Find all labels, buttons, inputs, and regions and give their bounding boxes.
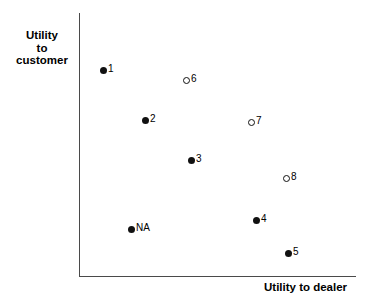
data-point-label: 1 (108, 63, 114, 74)
filled-circle-marker-icon (100, 67, 107, 74)
data-point-label: NA (136, 222, 150, 233)
open-circle-marker-icon (248, 119, 255, 126)
filled-circle-marker-icon (253, 217, 260, 224)
y-axis-line (79, 13, 80, 277)
y-axis-title-line-1: Utility (8, 29, 76, 42)
filled-circle-marker-icon (188, 157, 195, 164)
data-point-label: 8 (291, 171, 297, 182)
data-point-label: 5 (293, 246, 299, 257)
y-axis-title: Utility to customer (8, 29, 76, 67)
scatter-plot-figure: Utility to customer Utility to dealer 16… (0, 0, 367, 305)
data-point-label: 2 (150, 113, 156, 124)
open-circle-marker-icon (283, 175, 290, 182)
data-point-label: 4 (261, 213, 267, 224)
data-point-label: 3 (196, 153, 202, 164)
y-axis-title-line-3: customer (8, 54, 76, 67)
open-circle-marker-icon (183, 77, 190, 84)
y-axis-title-line-2: to (8, 42, 76, 55)
x-axis-title: Utility to dealer (264, 281, 347, 294)
x-axis-line (79, 276, 356, 277)
filled-circle-marker-icon (285, 250, 292, 257)
data-point-label: 6 (191, 73, 197, 84)
data-point-label: 7 (256, 115, 262, 126)
filled-circle-marker-icon (142, 117, 149, 124)
filled-circle-marker-icon (128, 226, 135, 233)
